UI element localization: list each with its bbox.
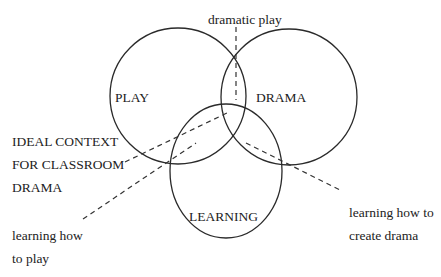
ideal-context-line-3: DRAMA [12, 181, 62, 195]
learning-play-line-1: learning how [12, 229, 83, 243]
learning-label: LEARNING [189, 210, 258, 224]
learning-play-line-2: to play [12, 252, 49, 266]
dramatic-play-label: dramatic play [208, 13, 282, 27]
ideal-context-line-1: IDEAL CONTEXT [12, 135, 118, 149]
ideal-context-line-2: FOR CLASSROOM [12, 158, 124, 172]
learning-drama-line-1: learning how to [349, 206, 434, 220]
drama-label: DRAMA [256, 91, 306, 105]
play-label: PLAY [115, 91, 149, 105]
learning-drama-line-2: create drama [349, 229, 418, 243]
learning-drama-pointer [246, 143, 342, 191]
venn-diagram: dramatic play PLAY DRAMA LEARNING IDEAL … [0, 0, 441, 277]
